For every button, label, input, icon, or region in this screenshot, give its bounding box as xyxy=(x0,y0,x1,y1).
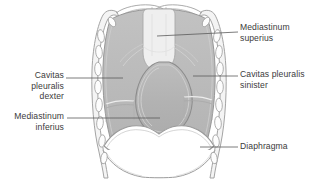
label-cavitas-pleuralis-dexter: Cavitas pleuralis dexter xyxy=(2,70,64,102)
label-mediastinum-inferius: Mediastinum inferius xyxy=(0,111,64,132)
label-mediastinum-superius: Mediastinum superius xyxy=(240,22,314,43)
label-cavitas-pleuralis-sinister: Cavitas pleuralis sinister xyxy=(240,69,316,90)
anatomy-figure: Mediastinum superius Cavitas pleuralis s… xyxy=(0,0,317,180)
label-diaphragma: Diaphragma xyxy=(240,141,314,152)
mediastinum-superius-region xyxy=(143,9,175,70)
